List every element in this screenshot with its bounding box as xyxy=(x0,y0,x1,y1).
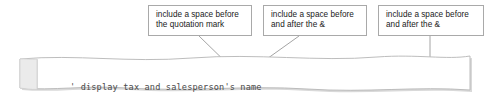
callout-2-line-1: include a space before xyxy=(271,10,360,20)
figure-root: include a space before the quotation mar… xyxy=(0,0,489,94)
callout-ampersand-note-2: include a space before and after the & xyxy=(378,5,484,36)
code-block: ' display tax and salesperson's name lbl… xyxy=(61,60,466,94)
callout-3-line-1: include a space before xyxy=(386,10,477,20)
code-snippet-strip: ' display tax and salesperson's name lbl… xyxy=(17,52,472,93)
code-comment-line: ' display tax and salesperson's name xyxy=(61,82,466,93)
callout-quotation-mark-note: include a space before the quotation mar… xyxy=(148,5,252,36)
callout-2-line-2: and after the & xyxy=(271,20,360,30)
paper-left-gutter xyxy=(20,59,37,90)
callout-ampersand-note-1: include a space before and after the & xyxy=(263,5,367,36)
callout-1-line-1: include a space before xyxy=(156,10,245,20)
callout-3-line-2: and after the & xyxy=(386,20,477,30)
callout-1-line-2: the quotation mark xyxy=(156,20,245,30)
